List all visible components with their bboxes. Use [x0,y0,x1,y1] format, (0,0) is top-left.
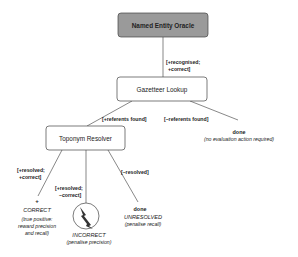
edge-label-recognised-correct: [+recognised; +correct] [166,59,200,72]
terminal-outcome: UNRESOLVED [124,214,162,220]
svg-text:[+resolved;: [+resolved; [55,185,83,191]
edge-label-resolved-correct: [+resolved; +correct] [17,167,45,180]
svg-text:–correct]: –correct] [59,192,81,198]
svg-text:(true positive:: (true positive: [21,216,53,222]
node-gazetteer-lookup: Gazetteer Lookup [117,77,207,101]
edge-label-unresolved: [–resolved] [121,169,149,175]
terminal-incorrect: INCORRECT (penalise precision) [67,203,112,245]
svg-text:reward precision: reward precision [18,223,56,229]
svg-text:and recall): and recall) [25,230,49,236]
edge-label-resolved-incorrect: [+resolved; –correct] [55,185,83,198]
node-label: Named Entity Oracle [132,22,195,30]
svg-text:+correct]: +correct] [168,66,191,72]
node-label: Gazetteer Lookup [137,86,188,94]
svg-text:+correct]: +correct] [19,174,42,180]
edge-label-referents-not-found: [–referents found] [164,116,209,122]
terminal-no-action: done (no evaluation action required) [204,129,274,142]
evaluation-decision-diagram: Named Entity Oracle [+recognised; +corre… [0,0,298,257]
edge-gazetteer-to-resolver [87,101,132,126]
edge-label-referents-found: [+referents found] [102,116,147,122]
svg-text:[+resolved;: [+resolved; [17,167,45,173]
terminal-outcome: CORRECT [23,207,51,213]
terminal-title: done [134,206,147,212]
lightning-circle-icon [73,203,99,229]
svg-text:[+recognised;: [+recognised; [166,59,200,65]
terminal-correct: + CORRECT (true positive: reward precisi… [18,198,56,236]
terminal-unresolved: done UNRESOLVED (penalise recall) [124,206,162,227]
terminal-title: done [233,129,246,135]
terminal-note: (no evaluation action required) [204,136,274,142]
node-toponym-resolver: Toponym Resolver [46,126,125,150]
node-label: Toponym Resolver [59,135,113,143]
terminal-note: (penalise recall) [125,221,162,227]
terminal-outcome: INCORRECT [72,232,106,238]
edge-resolver-to-unresolved [108,150,138,202]
node-named-entity-oracle: Named Entity Oracle [118,13,208,37]
terminal-note: (penalise precision) [67,239,112,245]
plus-icon: + [35,198,39,204]
